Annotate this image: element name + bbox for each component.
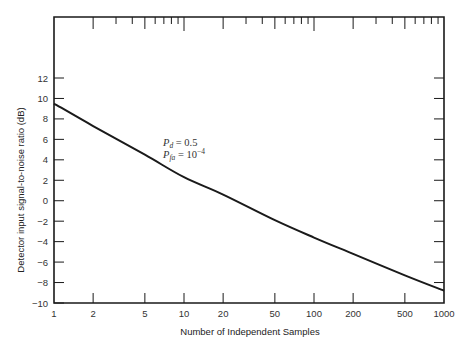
x-tick-label: 100	[306, 308, 322, 319]
y-tick-label: 4	[43, 154, 48, 165]
y-tick-label: 0	[43, 195, 48, 206]
x-tick-label: 50	[270, 308, 281, 319]
x-tick-label: 500	[397, 308, 413, 319]
y-axis: −10−8−6−4−2024681012	[32, 73, 64, 309]
snr-curve	[54, 104, 444, 291]
plot-frame	[54, 17, 444, 303]
y-tick-label: −4	[37, 236, 48, 247]
x-tick-label: 5	[142, 308, 147, 319]
y-tick-label: 12	[37, 73, 48, 84]
x-axis-title: Number of Independent Samples	[180, 326, 320, 337]
x-tick-label: 1000	[433, 308, 454, 319]
y-tick-label: 6	[43, 134, 48, 145]
y-tick-label: 8	[43, 113, 48, 124]
x-tick-label: 10	[179, 308, 190, 319]
right-axis-ticks	[434, 78, 444, 283]
x-tick-label: 2	[90, 308, 95, 319]
y-tick-label: −6	[37, 257, 48, 268]
y-tick-label: −2	[37, 216, 48, 227]
plot-border	[54, 17, 444, 303]
pfa-annotation: Pfa = 10−4	[162, 147, 205, 162]
x-tick-label: 200	[345, 308, 361, 319]
chart-canvas: −10−8−6−4−2024681012 1251020501002005001…	[0, 0, 468, 346]
x-tick-label: 1	[51, 308, 56, 319]
x-axis: 1251020501002005001000	[51, 293, 454, 319]
y-tick-label: −8	[37, 277, 48, 288]
y-axis-title: Detector input signal-to-noise ratio (dB…	[15, 107, 26, 272]
top-axis-ticks	[93, 17, 438, 31]
y-tick-label: −10	[32, 298, 48, 309]
y-tick-label: 10	[37, 93, 48, 104]
y-tick-label: 2	[43, 175, 48, 186]
x-tick-label: 20	[218, 308, 229, 319]
